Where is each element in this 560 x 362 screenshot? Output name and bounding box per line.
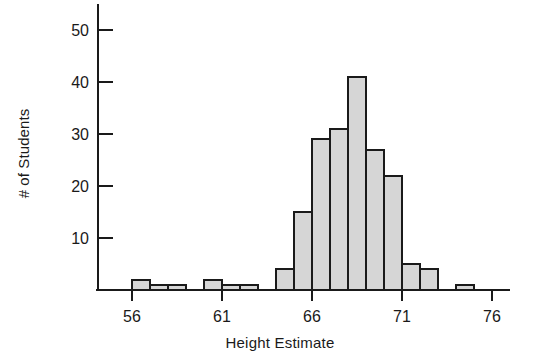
histogram-bar — [294, 212, 312, 290]
histogram-bar — [276, 269, 294, 290]
histogram-bar — [330, 129, 348, 290]
y-tick-label: 20 — [71, 178, 89, 195]
x-tick-label: 71 — [393, 308, 411, 325]
histogram-plot: 5661667176 1020304050 — [0, 0, 560, 362]
y-tick-label: 50 — [71, 22, 89, 39]
histogram-bar — [420, 269, 438, 290]
bars-group — [132, 77, 474, 290]
histogram-bar — [132, 280, 150, 290]
histogram-bar — [402, 264, 420, 290]
histogram-bar — [348, 77, 366, 290]
x-tick-label: 56 — [123, 308, 141, 325]
x-tick-label: 76 — [483, 308, 501, 325]
histogram-bar — [384, 176, 402, 290]
y-tick-label: 40 — [71, 74, 89, 91]
y-tick-label: 10 — [71, 230, 89, 247]
histogram-bar — [204, 280, 222, 290]
histogram-figure: # of Students Height Estimate 5661667176… — [0, 0, 560, 362]
histogram-bar — [312, 139, 330, 290]
x-axis-ticks: 5661667176 — [123, 290, 501, 325]
histogram-bar — [366, 150, 384, 290]
x-tick-label: 61 — [213, 308, 231, 325]
x-tick-label: 66 — [303, 308, 321, 325]
y-tick-label: 30 — [71, 126, 89, 143]
y-axis-ticks: 1020304050 — [71, 22, 113, 247]
